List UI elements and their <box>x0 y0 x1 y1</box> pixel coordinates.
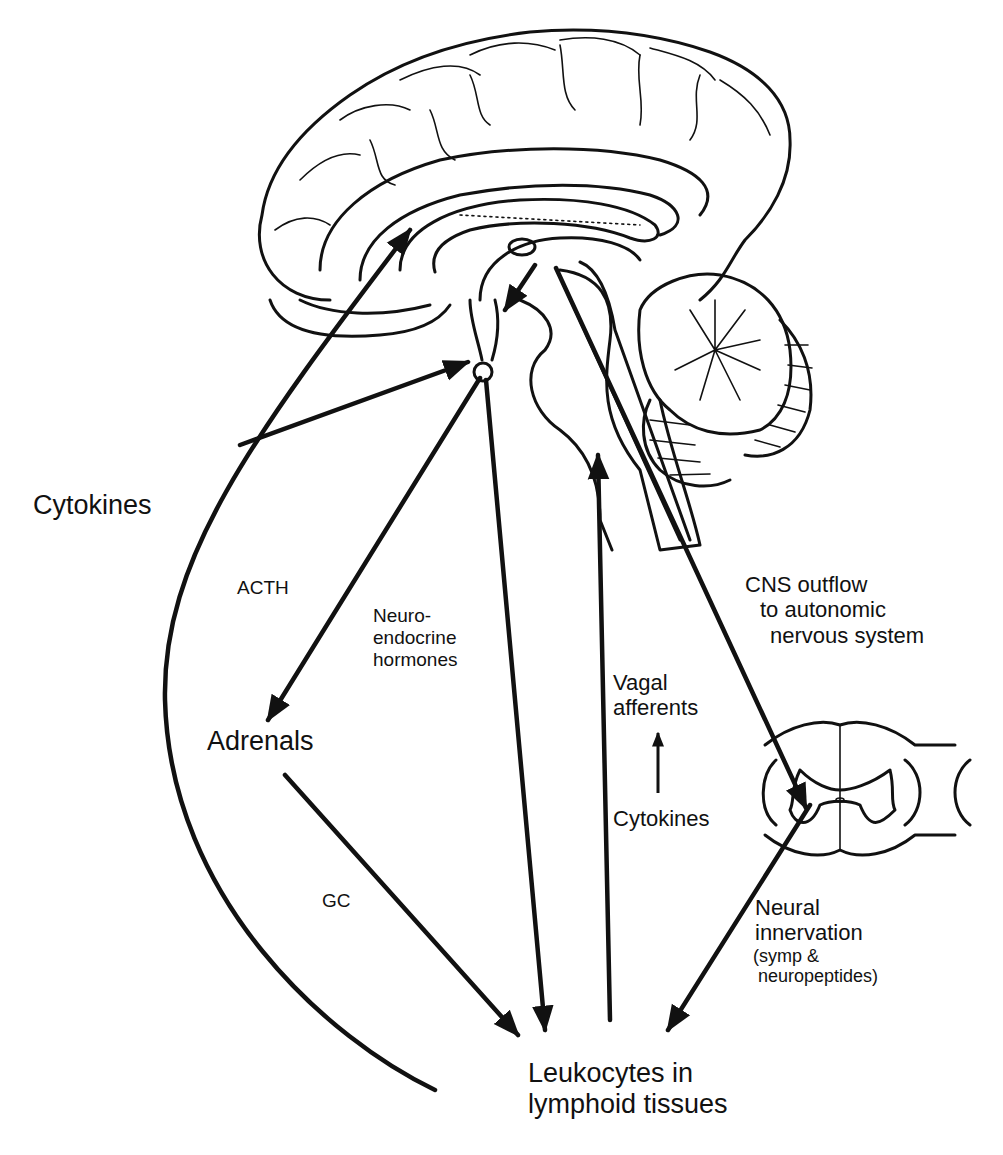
cytokines-small-label: Cytokines <box>613 806 710 831</box>
gc-arrow <box>285 775 518 1035</box>
cns-outflow-line-3: nervous system <box>745 623 924 648</box>
acth-label: ACTH <box>237 577 289 599</box>
neural-line-1: Neural <box>637 895 878 920</box>
cns-outflow-line-1: CNS outflow <box>745 572 924 597</box>
cytokine-to-hypothalamus-arrow <box>240 362 468 445</box>
adrenals-label: Adrenals <box>207 726 314 757</box>
cns-outflow-arrow <box>556 268 806 808</box>
cytokines-label: Cytokines <box>33 490 152 521</box>
neuroendocrine-label: Neuro- endocrine hormones <box>373 605 458 671</box>
vagal-afferents-label: Vagal afferents <box>613 670 698 721</box>
vagal-line-2: afferents <box>613 695 698 720</box>
neural-line-2: innervation <box>637 920 878 945</box>
hypothalamus-inner-arrow <box>505 265 535 310</box>
neural-line-3: (symp & <box>637 946 878 967</box>
neuroendocrine-line-1: Neuro- <box>373 605 458 627</box>
neuroendocrine-arrow <box>486 380 545 1030</box>
neuroendocrine-line-2: endocrine <box>373 627 458 649</box>
spinal-cord-illustration <box>763 722 970 855</box>
neural-innervation-label: Neural innervation (symp & neuropeptides… <box>637 895 878 987</box>
leukocytes-label: Leukocytes in lymphoid tissues <box>528 1058 728 1120</box>
vagal-line-1: Vagal <box>613 670 698 695</box>
leukocytes-line-1: Leukocytes in <box>528 1058 728 1089</box>
leukocytes-line-2: lymphoid tissues <box>528 1089 728 1120</box>
cns-outflow-label: CNS outflow to autonomic nervous system <box>745 572 924 648</box>
neuroendocrine-line-3: hormones <box>373 649 458 671</box>
cns-outflow-line-2: to autonomic <box>745 597 924 622</box>
neural-line-4: neuropeptides) <box>637 966 878 987</box>
brain-illustration <box>259 30 812 550</box>
gc-label: GC <box>322 890 351 912</box>
